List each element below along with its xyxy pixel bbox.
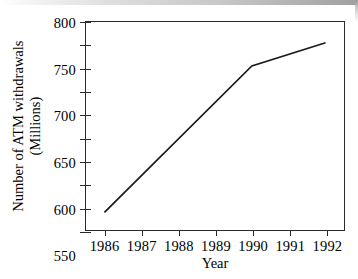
- y-tick-label: 750: [54, 62, 76, 77]
- y-tick-label: 700: [54, 109, 76, 124]
- x-tick-label: 1991: [275, 239, 305, 254]
- y-tick-label: 550: [54, 249, 76, 264]
- x-axis-title: Year: [85, 256, 345, 271]
- x-tick-label: 1989: [201, 239, 231, 254]
- x-tick-label: 1992: [313, 239, 343, 254]
- y-tick-label: 650: [54, 156, 76, 171]
- y-axis-title: Number of ATM withdrawals (Millions): [0, 0, 56, 252]
- x-tick-mark: [253, 230, 254, 236]
- x-tick-label: 1990: [238, 239, 268, 254]
- plot-area: 800750700650600550500450400350 198619871…: [85, 21, 345, 231]
- chart-figure: Number of ATM withdrawals (Millions) 800…: [0, 0, 358, 279]
- y-axis-title-line2: (Millions): [28, 40, 45, 211]
- x-tick-mark: [216, 230, 217, 236]
- x-tick-label: 1987: [127, 239, 157, 254]
- y-tick-label: 800: [54, 16, 76, 31]
- x-tick-mark: [290, 230, 291, 236]
- x-tick-mark: [142, 230, 143, 236]
- data-line-layer: [86, 22, 344, 230]
- data-line-series: [104, 43, 325, 213]
- x-tick-mark: [327, 230, 328, 236]
- x-tick-mark: [105, 230, 106, 236]
- y-tick-label: 600: [54, 202, 76, 217]
- x-tick-label: 1988: [164, 239, 194, 254]
- y-tick-mark-inner: [86, 232, 91, 233]
- x-tick-label: 1986: [90, 239, 120, 254]
- y-axis-title-line1: Number of ATM withdrawals: [11, 40, 27, 211]
- x-tick-mark: [179, 230, 180, 236]
